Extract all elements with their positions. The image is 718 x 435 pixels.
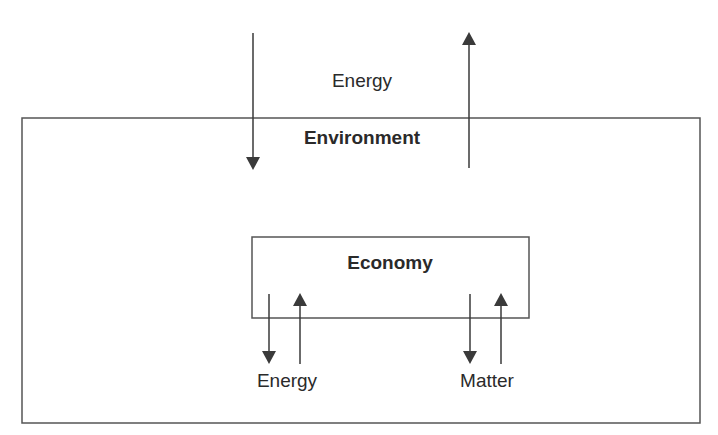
bottom-matter-label: Matter [460,370,514,392]
arrowhead-up-icon [494,293,508,306]
arrowhead-down-icon [246,157,260,170]
arrowhead-down-icon [262,351,276,364]
bottom-energy-label: Energy [257,370,317,392]
arrowhead-up-icon [293,293,307,306]
top-energy-label: Energy [332,70,392,92]
arrowhead-up-icon [462,32,476,45]
arrowhead-down-icon [463,351,477,364]
economy-label: Economy [347,252,433,274]
environment-label: Environment [304,127,420,149]
diagram-canvas [0,0,718,435]
